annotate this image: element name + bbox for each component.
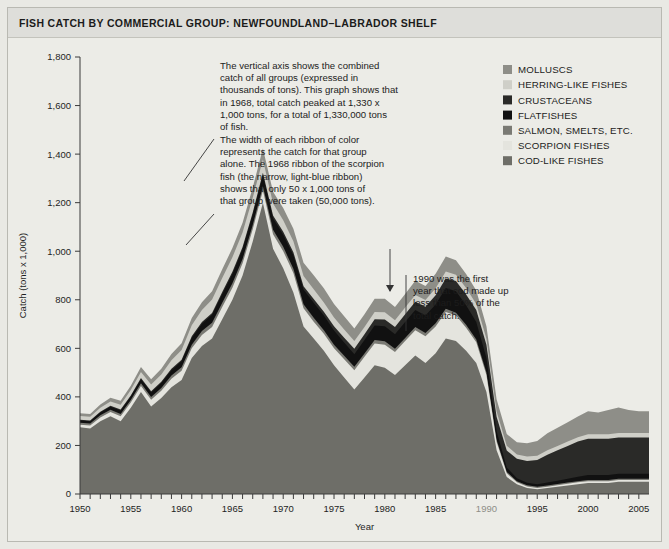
page-title: FISH CATCH BY COMMERCIAL GROUP: NEWFOUND… [8,17,437,29]
legend-label: COD-LIKE FISHES [518,155,604,166]
annotation-line: 1,000 tons, for a total of 1,330,000 ton… [220,109,387,120]
y-tick-label: 1,800 [47,51,71,62]
y-axis-title: Catch (tons x 1,000) [17,233,28,319]
x-tick-label: 1980 [374,503,395,514]
annotation-line: alone. The 1968 ribbon of the scorpion [220,158,384,169]
x-axis-tick-labels: 1950195519601965197019751980198519901995… [69,503,649,514]
annotation-line: fish (the narrow, light-blue ribbon) [220,171,362,182]
x-tick-label: 1960 [171,503,192,514]
x-tick-label: 1990 [476,503,497,514]
x-axis-title: Year [355,521,374,532]
annotation-line: represents the catch for that group [220,146,367,157]
annotation-line: shows that only 50 x 1,000 tons of [220,183,365,194]
x-tick-label: 1965 [222,503,243,514]
legend-swatch [503,65,512,74]
chart-page: FISH CATCH BY COMMERCIAL GROUP: NEWFOUND… [0,0,669,549]
legend-swatch [503,141,512,150]
x-tick-label: 2005 [628,503,649,514]
x-tick-label: 1955 [120,503,141,514]
annotation-line: catch of all groups (expressed in [220,72,358,83]
y-tick-label: 800 [55,294,71,305]
legend-swatch [503,126,512,135]
x-tick-label: 1985 [425,503,446,514]
annotation-line: that group were taken (50,000 tons). [220,195,375,206]
legend-label: HERRING-LIKE FISHES [518,79,628,90]
legend-swatch [503,80,512,89]
y-tick-label: 200 [55,440,71,451]
stacked-area-chart: 02004006008001,0001,2001,4001,6001,800 1… [8,39,661,541]
y-tick-label: 1,400 [47,149,71,160]
legend: MOLLUSCSHERRING-LIKE FISHESCRUSTACEANSFL… [503,64,633,166]
legend-swatch [503,111,512,120]
annotation-line: 1990 was the first [413,273,489,284]
y-tick-label: 600 [55,343,71,354]
annotation-arrow-head [386,285,394,292]
x-tick-label: 1995 [527,503,548,514]
annotation-line: thousands of tons). This graph shows tha… [220,84,398,95]
legend-label: CRUSTACEANS [518,95,593,106]
annotation-line: of fish. [220,121,248,132]
y-tick-label: 1,200 [47,197,71,208]
x-tick-label: 1970 [273,503,294,514]
annotation-line: less than 50% of the [413,297,500,308]
chart-title-bar: FISH CATCH BY COMMERCIAL GROUP: NEWFOUND… [8,8,661,38]
annotation-leader-ribbon [186,214,214,245]
x-tick-label: 2000 [577,503,598,514]
x-tick-label: 1950 [69,503,90,514]
annotation-line: year that cod made up [413,285,508,296]
chart-plot-area: 02004006008001,0001,2001,4001,6001,800 1… [8,39,661,541]
annotation-line: total catch. [413,310,459,321]
legend-label: FLATFISHES [518,110,578,121]
y-tick-label: 400 [55,391,71,402]
annotation-line: The width of each ribbon of color [220,134,360,145]
legend-label: SALMON, SMELTS, ETC. [518,125,633,136]
y-axis-tick-labels: 02004006008001,0001,2001,4001,6001,800 [47,51,71,499]
legend-label: MOLLUSCS [518,64,573,75]
annotation-line: The vertical axis shows the combined [220,60,379,71]
legend-swatch [503,95,512,104]
y-tick-label: 1,600 [47,100,71,111]
annotation-line: in 1968, total catch peaked at 1,330 x [220,97,380,108]
legend-label: SCORPION FISHES [518,140,610,151]
y-tick-label: 1,000 [47,246,71,257]
y-tick-label: 0 [66,488,71,499]
annotation-leader-peak [184,139,214,181]
x-tick-label: 1975 [323,503,344,514]
legend-swatch [503,156,512,165]
